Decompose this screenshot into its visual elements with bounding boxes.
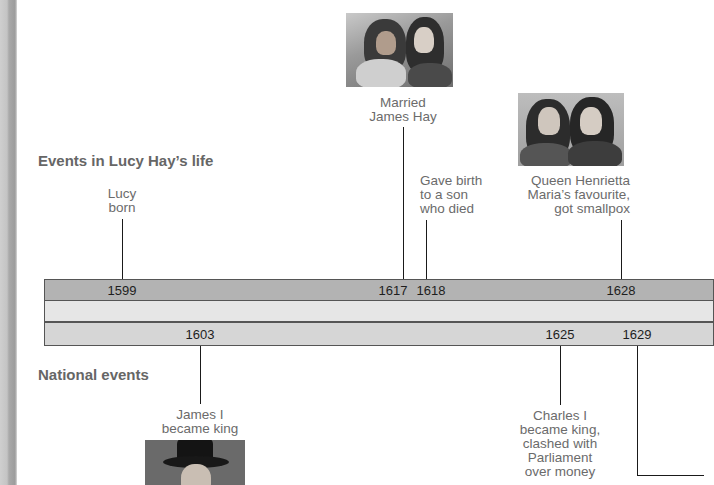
label-line: Married bbox=[353, 96, 453, 110]
label-line: over money bbox=[510, 465, 610, 479]
event-label-charles-king: Charles I became king, clashed with Parl… bbox=[510, 409, 610, 479]
married-portrait-image bbox=[346, 13, 453, 87]
event-label-lucy-born: Lucy born bbox=[92, 187, 152, 215]
connector-line-1625 bbox=[560, 346, 561, 405]
connector-line-1599 bbox=[122, 219, 123, 279]
national-timeline-bar bbox=[44, 322, 714, 346]
label-line: Parliament bbox=[510, 451, 610, 465]
connector-line-1603 bbox=[200, 346, 201, 404]
label-line: Maria’s favourite, bbox=[520, 188, 630, 202]
label-line: Gave birth bbox=[420, 174, 482, 188]
label-line: Charles I bbox=[510, 409, 610, 423]
label-line: Lucy bbox=[92, 187, 152, 201]
label-line: James I bbox=[150, 408, 250, 422]
heading-national-events: National events bbox=[38, 366, 149, 383]
connector-line-1629 bbox=[637, 346, 638, 475]
henrietta-portrait-image bbox=[518, 93, 624, 166]
heading-lucy-events: Events in Lucy Hay’s life bbox=[38, 152, 213, 169]
year-1617: 1617 bbox=[379, 283, 408, 298]
label-line: to a son bbox=[420, 188, 482, 202]
label-line: became king, bbox=[510, 423, 610, 437]
year-1625: 1625 bbox=[546, 327, 575, 342]
label-line: born bbox=[92, 201, 152, 215]
year-1628: 1628 bbox=[607, 283, 636, 298]
book-spine bbox=[0, 0, 17, 485]
label-line: became king bbox=[150, 422, 250, 436]
event-label-smallpox: Queen Henrietta Maria’s favourite, got s… bbox=[520, 174, 630, 216]
label-line: clashed with bbox=[510, 437, 610, 451]
james-portrait-image bbox=[145, 440, 245, 485]
connector-line-1617 bbox=[403, 127, 404, 279]
connector-line-1629-horizontal bbox=[637, 475, 704, 476]
connector-line-1618 bbox=[426, 220, 427, 279]
label-line: got smallpox bbox=[520, 202, 630, 216]
event-label-james-king: James I became king bbox=[150, 408, 250, 436]
year-1629: 1629 bbox=[623, 327, 652, 342]
connector-line-1628 bbox=[621, 220, 622, 279]
middle-timeline-bar bbox=[44, 300, 714, 322]
label-line: who died bbox=[420, 202, 482, 216]
year-1618: 1618 bbox=[417, 283, 446, 298]
event-label-married: Married James Hay bbox=[353, 96, 453, 124]
label-line: James Hay bbox=[353, 110, 453, 124]
label-line: Queen Henrietta bbox=[520, 174, 630, 188]
year-1603: 1603 bbox=[186, 327, 215, 342]
event-label-son-died: Gave birth to a son who died bbox=[420, 174, 482, 216]
year-1599: 1599 bbox=[108, 283, 137, 298]
